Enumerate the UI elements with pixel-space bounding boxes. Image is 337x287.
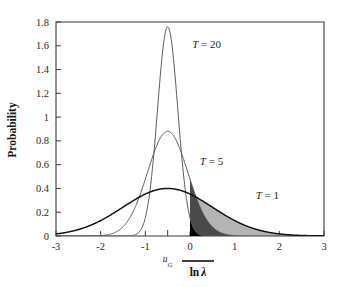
figure-container: 00.20.40.60.811.21.41.61.8 -3-2-10123 Pr… (0, 0, 337, 287)
y-axis-ticks: 00.20.40.60.811.21.41.61.8 (36, 17, 61, 242)
x-tick-label: -2 (96, 241, 105, 252)
y-axis-title: Probability (6, 102, 19, 158)
x-tick-label: 0 (187, 241, 192, 252)
y-tick-label: 0.4 (36, 183, 50, 194)
x-tick-label: 3 (321, 241, 326, 252)
x-tick-label: -1 (141, 241, 150, 252)
probability-distribution-chart: 00.20.40.60.811.21.41.61.8 -3-2-10123 Pr… (0, 0, 337, 287)
y-tick-label: 1.2 (36, 88, 49, 99)
y-tick-label: 1.8 (36, 17, 49, 28)
y-tick-label: 0.2 (36, 207, 49, 218)
series-label-t5: T = 5 (200, 155, 224, 167)
y-tick-label: 0 (44, 231, 49, 242)
series-annotations: T = 20 T = 5 T = 1 (192, 38, 279, 201)
y-tick-label: 0.6 (36, 159, 49, 170)
x-axis-title-text: lnλ (190, 266, 207, 278)
y-axis-title-text: Probability (6, 102, 19, 158)
y-tick-label: 1.4 (36, 64, 50, 75)
x-tick-label: -3 (52, 241, 61, 252)
ug-label-text: uG (163, 254, 173, 269)
x-axis-title: lnλ (182, 261, 214, 278)
y-tick-label: 0.8 (36, 135, 49, 146)
y-tick-label: 1 (44, 112, 49, 123)
x-tick-label: 1 (232, 241, 237, 252)
x-tick-label: 2 (277, 241, 282, 252)
series-label-t20: T = 20 (192, 38, 221, 50)
shaded-tail-regions (190, 179, 324, 236)
y-tick-label: 1.6 (36, 40, 49, 51)
series-label-t1: T = 1 (256, 189, 279, 201)
